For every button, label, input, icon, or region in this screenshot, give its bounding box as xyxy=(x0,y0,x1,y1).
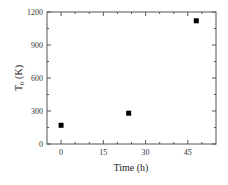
data-point-marker xyxy=(194,18,199,23)
y-tick-label: 900 xyxy=(31,41,43,50)
axis-ticks: 015304503006009001200 xyxy=(27,8,216,157)
scatter-chart: 015304503006009001200 Time (h) T0 (K) xyxy=(0,0,228,185)
y-tick-label: 600 xyxy=(31,74,43,83)
plot-frame xyxy=(47,12,216,144)
y-tick-label: 0 xyxy=(39,140,43,149)
y-tick-label: 1200 xyxy=(27,8,43,17)
data-point-marker xyxy=(59,123,64,128)
x-tick-label: 45 xyxy=(184,148,192,157)
plot-border xyxy=(47,12,216,144)
y-axis-label: T0 (K) xyxy=(13,65,26,91)
x-tick-label: 30 xyxy=(142,148,150,157)
x-tick-label: 15 xyxy=(99,148,107,157)
x-tick-label: 0 xyxy=(59,148,63,157)
data-point-marker xyxy=(126,111,131,116)
x-axis-label: Time (h) xyxy=(114,162,149,174)
data-points xyxy=(59,18,199,128)
y-tick-label: 300 xyxy=(31,107,43,116)
